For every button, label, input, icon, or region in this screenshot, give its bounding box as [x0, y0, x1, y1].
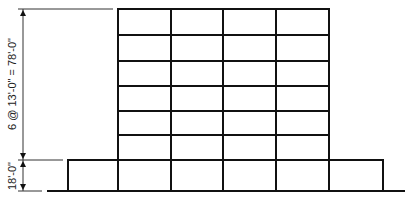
building	[47, 9, 405, 191]
arrow-up-icon	[20, 10, 26, 16]
building-elevation-diagram: 6 @ 13'-0" = 78'-0" 18'-0"	[0, 0, 411, 211]
arrow-down-icon	[20, 153, 26, 159]
arrow-down-icon	[20, 184, 26, 190]
podium-outline	[68, 160, 383, 191]
dimension-lines	[18, 9, 113, 191]
arrow-up-icon	[20, 161, 26, 167]
typical-floors-dimension-label: 6 @ 13'-0" = 78'-0"	[6, 38, 18, 130]
podium-dimension-label: 18'-0"	[6, 162, 18, 190]
